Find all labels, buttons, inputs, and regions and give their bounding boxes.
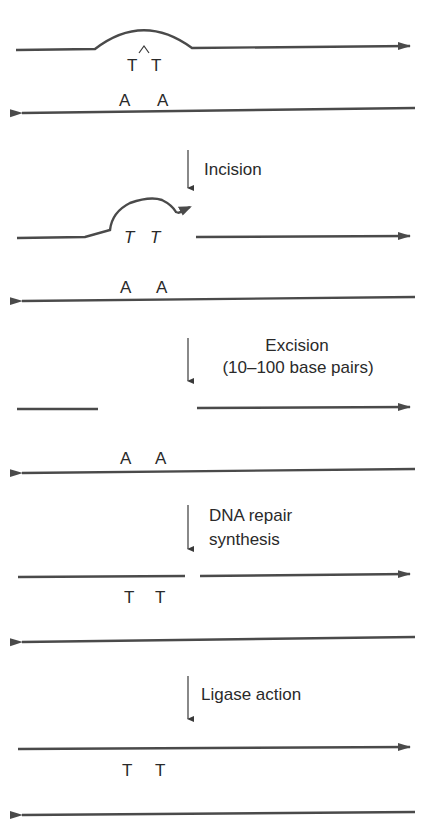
base-a: A	[119, 91, 131, 110]
top-strand-with-bulge	[16, 30, 410, 50]
top-strand	[18, 747, 410, 749]
step-repair-synthesis: DNA repair synthesis	[188, 505, 292, 549]
base-t: T	[122, 761, 132, 780]
bottom-strand	[22, 469, 415, 473]
bottom-strand	[22, 812, 415, 815]
step-incision: Incision	[188, 150, 262, 188]
step-label: Ligase action	[201, 685, 301, 704]
base-a: A	[156, 278, 168, 297]
base-t: T	[151, 56, 161, 75]
base-a: A	[120, 278, 132, 297]
top-strand-right	[196, 236, 410, 237]
base-t: T	[150, 228, 162, 247]
step-label: DNA repair	[209, 506, 292, 525]
step-label: Incision	[204, 160, 262, 179]
base-a: A	[155, 449, 167, 468]
stage-damaged: T T A A	[16, 30, 415, 113]
top-strand-incised-flap	[17, 199, 190, 238]
base-a: A	[120, 449, 132, 468]
top-strand-right	[200, 574, 410, 576]
excision-repair-diagram: T T A A Incision T T A A Excision (10–10…	[0, 0, 442, 826]
bottom-strand	[22, 297, 415, 301]
step-label: Excision	[265, 336, 328, 355]
base-t: T	[155, 588, 165, 607]
stage-ligated: T T	[18, 747, 415, 815]
bottom-strand	[22, 637, 415, 642]
top-strand-right	[197, 407, 410, 408]
base-t: T	[155, 761, 165, 780]
stage-excised: A A	[17, 407, 415, 473]
stage-incised: T T A A	[17, 199, 415, 301]
base-t: T	[124, 228, 136, 247]
base-t: T	[124, 588, 134, 607]
base-a: A	[157, 91, 169, 110]
step-label-detail: synthesis	[209, 530, 280, 549]
base-t: T	[127, 56, 137, 75]
step-ligase-action: Ligase action	[188, 676, 301, 719]
step-excision: Excision (10–100 base pairs)	[188, 336, 374, 381]
top-strand-left-repaired	[18, 576, 185, 577]
bottom-strand	[22, 108, 415, 113]
step-label-detail: (10–100 base pairs)	[222, 358, 373, 377]
stage-resynthesized: T T	[18, 574, 415, 642]
thymine-dimer-bond-icon	[139, 46, 149, 53]
